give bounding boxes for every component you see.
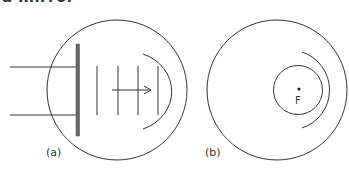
focus-label: F xyxy=(295,95,301,106)
diagram-canvas: (a) F (b) xyxy=(0,0,349,171)
mirror-arc-b xyxy=(302,52,330,128)
focus-point xyxy=(297,87,300,90)
panel-label-b: (b) xyxy=(205,146,221,159)
source-plate xyxy=(76,44,80,136)
mirror-arc-a xyxy=(143,54,172,129)
panel-label-a: (a) xyxy=(46,146,61,159)
outer-circle-b xyxy=(207,20,347,160)
panel-b: F (b) xyxy=(205,20,347,160)
panel-a: (a) xyxy=(10,20,187,160)
